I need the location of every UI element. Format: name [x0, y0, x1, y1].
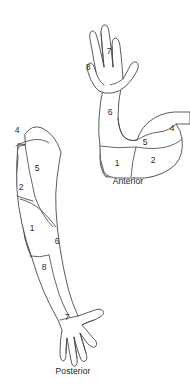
anterior-label-2: 2: [151, 155, 156, 165]
posterior-label-8: 8: [42, 262, 47, 272]
anatomy-svg: Anterior 7 8 6 5 4 1 2: [0, 0, 190, 390]
posterior-label-6: 6: [55, 236, 60, 246]
posterior-label-5: 5: [35, 163, 40, 173]
posterior-caption: Posterior: [56, 366, 91, 376]
posterior-limb-outline: [17, 127, 104, 366]
posterior-view-group: Posterior 4 5 2 1 6 8 7: [15, 125, 104, 376]
posterior-label-7: 7: [65, 312, 70, 322]
posterior-label-4: 4: [15, 125, 20, 135]
anatomy-figure: Anterior 7 8 6 5 4 1 2: [0, 0, 190, 390]
anterior-label-7: 7: [107, 46, 112, 56]
posterior-label-2: 2: [19, 182, 24, 192]
posterior-label-1: 1: [30, 223, 35, 233]
anterior-caption: Anterior: [113, 176, 144, 186]
anterior-view-group: Anterior 7 8 6 5 4 1 2: [86, 25, 190, 186]
anterior-label-5: 5: [143, 137, 148, 147]
anterior-label-8: 8: [86, 62, 91, 72]
anterior-label-6: 6: [108, 107, 113, 117]
anterior-limb-outline: [99, 85, 190, 178]
anterior-label-1: 1: [115, 158, 120, 168]
anterior-label-4: 4: [170, 123, 175, 133]
anterior-hand-outline: [87, 25, 138, 93]
